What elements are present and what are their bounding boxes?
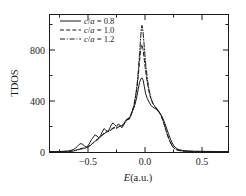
legend: c/a = 0.8 c/a = 1.0 c/a = 1.2 xyxy=(60,16,114,44)
y-axis-ticks xyxy=(50,25,229,153)
series-line-ca-1-2 xyxy=(50,25,229,151)
y-axis-title: TDOS xyxy=(9,69,20,97)
legend-label-2: c/a = 1.2 xyxy=(84,34,114,44)
series-line-ca-0-8 xyxy=(50,78,229,152)
tdos-line-chart: 0 400 800 −0.5 0.0 0.5 TDOS E(a.u.) c/a … xyxy=(0,0,246,196)
figure-container: 0 400 800 −0.5 0.0 0.5 TDOS E(a.u.) c/a … xyxy=(0,0,246,196)
series-line-ca-1-0 xyxy=(50,44,229,151)
y-tick-label-400: 400 xyxy=(30,96,45,107)
x-axis-title: E(a.u.) xyxy=(123,172,153,184)
x-tick-label-neg0-5: −0.5 xyxy=(79,156,97,167)
x-axis-ticks xyxy=(60,15,203,153)
y-tick-label-800: 800 xyxy=(30,45,45,56)
x-axis-title-rest: (a.u.) xyxy=(130,172,153,184)
x-tick-label-0-0: 0.0 xyxy=(139,156,152,167)
y-tick-label-0: 0 xyxy=(40,147,45,158)
x-tick-label-0-5: 0.5 xyxy=(196,156,209,167)
